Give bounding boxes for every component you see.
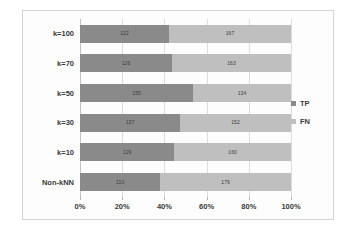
category-axis: k=100k=70k=50k=30k=10Non-kNN	[23, 19, 78, 197]
legend-label: TP	[300, 99, 310, 108]
bar-value-label: 122	[120, 31, 129, 36]
bar-value-label: 160	[228, 150, 237, 155]
tick-label: 60%	[199, 202, 214, 211]
bar-value-label: 179	[221, 180, 230, 185]
bar-row: 129160	[80, 143, 291, 161]
bar-value-label: 129	[123, 150, 132, 155]
bar-value-label: 134	[238, 91, 247, 96]
legend-label: FN	[300, 117, 310, 126]
bar-row: 137152	[80, 114, 291, 132]
chart-figure: k=100k=70k=50k=30k=10Non-kNN 12216712616…	[22, 10, 334, 220]
bar-row: 155134	[80, 84, 291, 102]
tick-label: 20%	[115, 202, 130, 211]
category-label: k=10	[23, 143, 78, 161]
tick-mark	[291, 197, 292, 200]
bar-row: 110179	[80, 173, 291, 191]
bar-segment-tp: 137	[80, 114, 180, 132]
bar-value-label: 167	[226, 31, 235, 36]
bar-value-label: 155	[132, 91, 141, 96]
tick-mark	[80, 197, 81, 200]
tick-label: 40%	[157, 202, 172, 211]
bar-value-label: 110	[116, 180, 124, 185]
category-label: Non-kNN	[23, 173, 78, 191]
value-axis: 0%20%40%60%80%100%	[80, 197, 291, 219]
bar-value-label: 163	[227, 61, 236, 66]
category-label: k=50	[23, 84, 78, 102]
legend-swatch-tp	[291, 101, 296, 106]
category-label: k=70	[23, 54, 78, 72]
tick-mark	[207, 197, 208, 200]
legend-entry: TP	[291, 99, 327, 108]
bar-segment-tp: 122	[80, 25, 169, 43]
bar-segment-tp: 155	[80, 84, 193, 102]
legend-swatch-fn	[291, 119, 296, 124]
bar-segment-fn: 152	[180, 114, 291, 132]
bar-segment-tp: 110	[80, 173, 160, 191]
bar-segment-fn: 160	[174, 143, 291, 161]
category-label: k=30	[23, 114, 78, 132]
tick-mark	[122, 197, 123, 200]
legend-entry: FN	[291, 117, 327, 126]
bar-segment-fn: 167	[169, 25, 291, 43]
category-label: k=100	[23, 25, 78, 43]
bar-segment-tp: 126	[80, 54, 172, 72]
bar-segment-fn: 134	[193, 84, 291, 102]
bar-row: 122167	[80, 25, 291, 43]
tick-label: 0%	[75, 202, 86, 211]
chart-legend: TPFN	[291, 99, 327, 135]
tick-label: 100%	[281, 202, 300, 211]
bar-value-label: 152	[231, 120, 240, 125]
tick-label: 80%	[241, 202, 256, 211]
plot-area: 122167126163155134137152129160110179	[80, 19, 291, 197]
bar-value-label: 137	[126, 120, 135, 125]
bar-segment-tp: 129	[80, 143, 174, 161]
bars-layer: 122167126163155134137152129160110179	[80, 19, 291, 197]
tick-mark	[249, 197, 250, 200]
bar-value-label: 126	[122, 61, 131, 66]
bar-row: 126163	[80, 54, 291, 72]
bar-segment-fn: 179	[160, 173, 291, 191]
bar-segment-fn: 163	[172, 54, 291, 72]
tick-mark	[164, 197, 165, 200]
